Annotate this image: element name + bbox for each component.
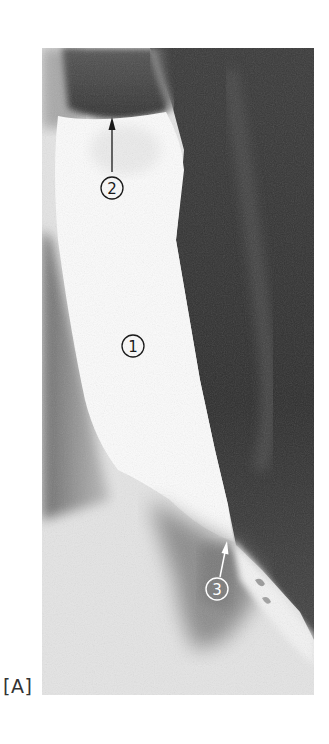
radiograph-image: 2 1 3: [0, 0, 329, 744]
annotation-2-label: 2: [107, 180, 117, 198]
panel-label: [A]: [3, 675, 32, 697]
radiograph-figure: 2 1 3: [0, 0, 329, 744]
annotation-3-label: 3: [212, 581, 222, 599]
annotation-1-label: 1: [128, 338, 138, 356]
